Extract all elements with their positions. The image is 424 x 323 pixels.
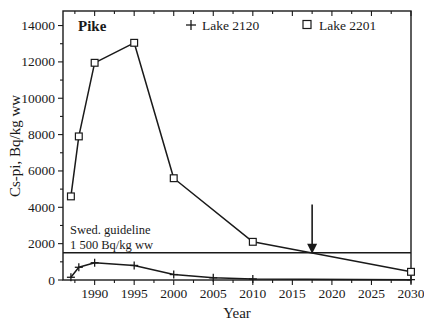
data-point-marker xyxy=(91,59,98,66)
x-tick-label: 2030 xyxy=(398,286,424,301)
guideline-annotation-line1: Swed. guideline xyxy=(70,223,151,237)
x-tick-label: 2005 xyxy=(200,286,227,301)
y-tick-label: 8000 xyxy=(28,127,55,142)
y-tick-label: 14000 xyxy=(21,18,55,33)
data-point-marker xyxy=(249,238,256,245)
y-tick-label: 2000 xyxy=(28,236,55,251)
y-tick-label: 0 xyxy=(48,273,55,288)
data-point-marker xyxy=(170,175,177,182)
x-axis-title: Year xyxy=(223,305,251,321)
data-point-marker xyxy=(408,268,415,275)
y-tick-label: 10000 xyxy=(21,91,55,106)
x-tick-label: 2000 xyxy=(160,286,187,301)
y-axis-title: Cs-pi, Bq/kg ww xyxy=(7,95,23,197)
legend: Lake 2120 Lake 2201 xyxy=(186,18,376,33)
x-tick-label: 2015 xyxy=(279,286,306,301)
down-arrow-icon xyxy=(307,205,317,254)
chart-canvas: 02000400060008000100001200014000 1990199… xyxy=(0,0,424,323)
square-icon xyxy=(303,21,311,29)
x-tick-label: 2020 xyxy=(318,286,345,301)
x-tick-label: 2025 xyxy=(358,286,385,301)
x-axis-tick-labels: 199019952000200520102015202020252030 xyxy=(81,286,424,301)
y-tick-label: 12000 xyxy=(21,54,55,69)
legend-entry-lake-2201: Lake 2201 xyxy=(303,18,376,33)
chart-figure: 02000400060008000100001200014000 1990199… xyxy=(0,0,424,323)
legend-label-lake-2120: Lake 2120 xyxy=(202,18,260,33)
y-axis-tick-labels: 02000400060008000100001200014000 xyxy=(21,18,55,287)
legend-label-lake-2201: Lake 2201 xyxy=(319,18,376,33)
legend-entry-lake-2120: Lake 2120 xyxy=(186,18,260,33)
plus-icon xyxy=(186,20,196,30)
data-point-marker xyxy=(68,193,75,200)
x-tick-label: 2010 xyxy=(239,286,266,301)
data-point-marker xyxy=(131,39,138,46)
annotation-group xyxy=(307,205,317,254)
guideline-annotation-line2: 1 500 Bq/kg ww xyxy=(70,238,153,252)
y-tick-label: 6000 xyxy=(28,163,55,178)
y-tick-label: 4000 xyxy=(28,200,55,215)
x-tick-label: 1995 xyxy=(121,286,148,301)
data-point-marker xyxy=(75,133,82,140)
y-axis-ticks xyxy=(58,26,63,280)
page-title: Pike xyxy=(78,18,107,34)
series-path xyxy=(71,263,411,280)
x-axis-top-ticks xyxy=(75,11,411,16)
x-axis-ticks xyxy=(75,280,411,285)
x-tick-label: 1990 xyxy=(81,286,108,301)
